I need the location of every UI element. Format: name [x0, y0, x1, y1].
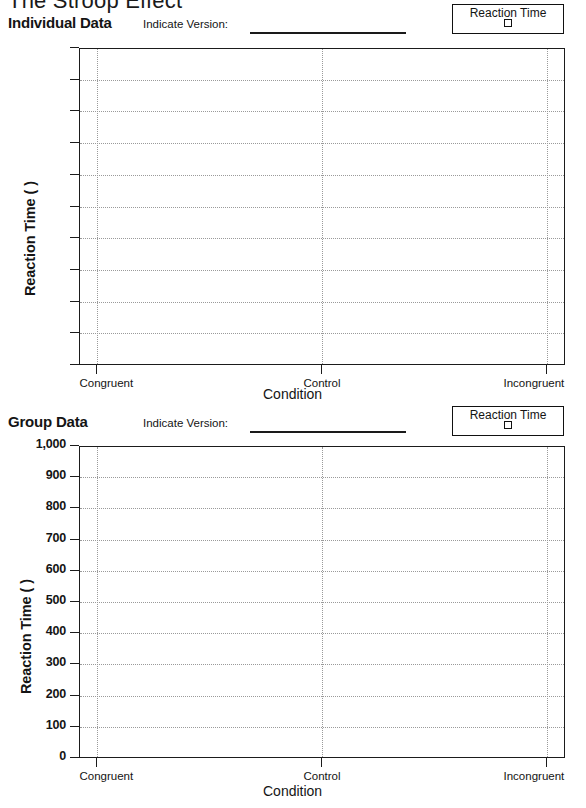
y-axis-tick-label: 200: [46, 687, 66, 701]
y-axis-tick: [70, 507, 79, 508]
y-axis-tick: [70, 174, 79, 175]
indicate-version-label-individual: Indicate Version:: [143, 18, 228, 30]
indicate-version-input-individual[interactable]: [250, 32, 406, 34]
gridline-vertical: [97, 49, 98, 364]
y-axis-tick: [70, 364, 79, 365]
x-axis-tick-label: Incongruent: [504, 377, 565, 389]
x-axis-tick-label: Congruent: [79, 770, 133, 782]
y-axis-tick: [70, 476, 79, 477]
y-axis-tick-label: 1,000: [36, 437, 66, 451]
legend-reaction-time-group[interactable]: Reaction Time: [452, 406, 564, 436]
page-title: The Stroop Effect: [8, 0, 182, 14]
y-axis-tick-label: 900: [46, 468, 66, 482]
y-axis-tick: [70, 206, 79, 207]
y-axis-tick-label: 700: [46, 531, 66, 545]
y-axis-tick: [70, 726, 79, 727]
gridline-vertical: [97, 447, 98, 757]
plot-area-group: [79, 446, 565, 758]
x-axis-title-group: Condition: [263, 783, 322, 799]
empty-square-swatch-icon: [504, 421, 512, 429]
x-axis-tick: [321, 365, 322, 374]
y-axis-tick: [70, 570, 79, 571]
x-axis-tick: [96, 758, 97, 767]
gridline-vertical: [322, 447, 323, 757]
y-axis-title-individual: Reaction Time ( ): [22, 181, 38, 296]
worksheet-page: The Stroop Effect Individual Data Indica…: [0, 0, 586, 808]
section-title-individual: Individual Data: [8, 14, 112, 31]
y-axis-tick: [70, 269, 79, 270]
y-axis-tick-label: 0: [59, 749, 66, 763]
y-axis-tick: [70, 695, 79, 696]
gridline-vertical: [547, 49, 548, 364]
y-axis-tick-label: 100: [46, 718, 66, 732]
y-axis-tick: [70, 47, 79, 48]
y-axis-tick: [70, 79, 79, 80]
y-axis-tick-label: 600: [46, 562, 66, 576]
x-axis-tick: [546, 758, 547, 767]
y-axis-tick-label: 800: [46, 499, 66, 513]
x-axis-tick-label: Control: [304, 770, 341, 782]
y-axis-tick: [70, 663, 79, 664]
y-axis-tick: [70, 142, 79, 143]
y-axis-tick-label: 400: [46, 624, 66, 638]
y-axis-tick: [70, 445, 79, 446]
empty-square-swatch-icon: [504, 19, 512, 27]
y-axis-title-group: Reaction Time ( ): [18, 579, 34, 694]
x-axis-tick: [96, 365, 97, 374]
plot-area-individual: [79, 48, 565, 365]
legend-label: Reaction Time: [453, 6, 563, 20]
x-axis-tick: [321, 758, 322, 767]
y-axis-tick: [70, 539, 79, 540]
y-axis-tick: [70, 237, 79, 238]
x-axis-tick: [546, 365, 547, 374]
y-axis-tick: [70, 601, 79, 602]
x-axis-tick-label: Incongruent: [504, 770, 565, 782]
section-title-group: Group Data: [8, 413, 88, 430]
y-axis-tick: [70, 757, 79, 758]
y-axis-tick-label: 300: [46, 655, 66, 669]
y-axis-tick: [70, 301, 79, 302]
y-axis-tick: [70, 632, 79, 633]
indicate-version-input-group[interactable]: [250, 431, 406, 433]
y-axis-tick-label: 500: [46, 593, 66, 607]
x-axis-tick-label: Control: [304, 377, 341, 389]
legend-reaction-time-individual[interactable]: Reaction Time: [452, 4, 564, 34]
indicate-version-label-group: Indicate Version:: [143, 417, 228, 429]
y-axis-tick: [70, 110, 79, 111]
x-axis-tick-label: Congruent: [79, 377, 133, 389]
y-axis-tick: [70, 332, 79, 333]
gridline-vertical: [547, 447, 548, 757]
gridline-vertical: [322, 49, 323, 364]
legend-label: Reaction Time: [453, 408, 563, 422]
